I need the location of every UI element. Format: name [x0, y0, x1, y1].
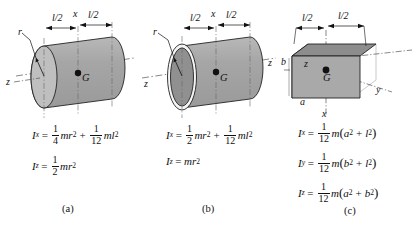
caption-a: (a)	[62, 203, 74, 214]
panel-solid-cylinder: r z x G l/2 l/2 Ix = 1 4 mr2 + 1 12 ml2 …	[0, 0, 140, 233]
fraction-denominator: 12	[318, 133, 330, 144]
equation-ix-c: Ix = 1 12 m ( a2 + l2 )	[298, 122, 376, 144]
fraction-denominator: 12	[318, 193, 330, 204]
fraction-one-quarter: 1 4	[52, 124, 59, 146]
fraction-numerator: 1	[52, 155, 59, 165]
eq-plus: +	[356, 127, 362, 139]
eq-lhs-sub: z	[170, 157, 173, 166]
moment-of-inertia-figure: r z x G l/2 l/2 Ix = 1 4 mr2 + 1 12 ml2 …	[0, 0, 417, 233]
term-mr: mr	[194, 129, 206, 141]
term-mr-exponent: 2	[73, 130, 77, 139]
label-radius-r: r	[18, 26, 22, 37]
eq-equals: =	[307, 187, 313, 199]
dim-arrow-left-start	[184, 26, 190, 30]
label-radius-r: r	[153, 26, 157, 37]
dim-arrow-right-end	[358, 24, 364, 28]
eq-lhs-sub: y	[302, 158, 305, 167]
fraction-denominator: 12	[318, 163, 330, 174]
eq-equals: =	[175, 155, 181, 167]
fraction-denominator: 2	[52, 166, 59, 177]
term-v1-exponent: 2	[349, 188, 353, 197]
center-of-mass-point	[213, 69, 219, 75]
caption-b: (b)	[202, 203, 214, 214]
fraction-numerator: 1	[227, 124, 234, 134]
radius-leader-line	[22, 33, 36, 58]
eq-equals: =	[308, 127, 314, 139]
fraction-numerator: 1	[93, 124, 100, 134]
thin-tube-drawing	[140, 0, 280, 233]
center-of-mass-point	[75, 70, 81, 76]
fraction-numerator: 1	[320, 122, 327, 132]
eq-equals: =	[308, 157, 314, 169]
label-half-length-right: l/2	[88, 9, 99, 20]
label-axis-x: x	[322, 108, 326, 119]
dim-arrow-right-start	[80, 23, 86, 27]
fraction-one-twelfth: 1 12	[224, 124, 236, 146]
panel-rectangular-block: b a z y x G l/2 l/2 Ix = 1 12 m ( a2 + l…	[280, 0, 417, 233]
equation-iz-c: Iz = 1 12 m ( a2 + b2 )	[298, 182, 378, 204]
fraction-one-twelfth: 1 12	[318, 122, 330, 144]
label-axis-z-left: z	[144, 78, 148, 89]
label-half-length-right: l/2	[338, 10, 349, 21]
eq-lhs-sub: z	[302, 188, 305, 197]
dim-arrow-right-start	[218, 23, 224, 27]
eq-plus: +	[213, 129, 219, 141]
fraction-numerator: 1	[320, 152, 327, 162]
fraction-one-half: 1 2	[52, 155, 59, 177]
dim-arrow-left-end	[318, 26, 324, 30]
label-half-length-left: l/2	[302, 12, 313, 23]
label-axis-z: z	[6, 76, 10, 87]
term-mr-exponent: 2	[196, 157, 200, 166]
eq-equals: =	[42, 129, 48, 141]
paren-close: )	[372, 125, 376, 141]
eq-lhs-sub: x	[170, 130, 173, 139]
dim-arrow-left-start	[296, 26, 302, 30]
eq-plus: +	[356, 157, 362, 169]
dimension-extension-right	[364, 26, 366, 46]
fraction-one-twelfth: 1 12	[318, 152, 330, 174]
label-center-of-mass-G: G	[220, 72, 228, 83]
term-mr: mr	[60, 129, 72, 141]
dim-arrow-right-start	[328, 24, 334, 28]
term-ml: ml	[238, 129, 249, 141]
equation-ix-b: Ix = 1 2 mr2 + 1 12 ml2	[166, 124, 252, 146]
eq-equals: =	[176, 129, 182, 141]
fraction-denominator: 12	[90, 135, 102, 146]
term-mr-exponent: 2	[207, 130, 211, 139]
eq-lhs-sub: x	[302, 128, 305, 137]
fraction-denominator: 4	[52, 135, 59, 146]
eq-lhs-sub: z	[36, 161, 39, 170]
label-axis-z-right: z	[268, 57, 272, 68]
term-ml-exponent: 2	[249, 130, 253, 139]
dim-arrow-left-end	[70, 26, 76, 30]
dim-arrow-left-end	[208, 26, 214, 30]
term-ml: ml	[104, 129, 115, 141]
term-v1-exponent: 2	[349, 158, 353, 167]
term-mr: mr	[184, 155, 196, 167]
equation-iz-a: Iz = 1 2 mr2	[32, 155, 76, 177]
equation-ix-a: Ix = 1 4 mr2 + 1 12 ml2	[32, 124, 118, 146]
term-m: m	[331, 127, 339, 139]
fraction-one-twelfth: 1 12	[90, 124, 102, 146]
eq-lhs-sub: x	[36, 130, 39, 139]
label-height-b: b	[281, 56, 286, 67]
fraction-numerator: 1	[320, 182, 327, 192]
label-half-length-left: l/2	[52, 12, 63, 23]
term-mr: mr	[60, 160, 72, 172]
dim-arrow-left-start	[46, 26, 52, 30]
label-center-of-mass-G: G	[323, 72, 331, 83]
label-center-of-mass-G: G	[82, 72, 90, 83]
dim-arrow-right-end	[106, 23, 112, 27]
label-axis-x: x	[73, 8, 77, 19]
label-half-length-left: l/2	[190, 12, 201, 23]
label-axis-z: z	[304, 58, 308, 69]
dim-arrow-right-end	[244, 23, 250, 27]
term-m: m	[331, 187, 339, 199]
fraction-denominator: 2	[186, 135, 193, 146]
term-v1-exponent: 2	[349, 128, 353, 137]
term-mr-exponent: 2	[72, 161, 76, 170]
term-ml-exponent: 2	[115, 130, 119, 139]
caption-c: (c)	[344, 205, 356, 216]
eq-equals: =	[41, 160, 47, 172]
equation-iy-c: Iy = 1 12 m ( b2 + l2 )	[298, 152, 376, 174]
